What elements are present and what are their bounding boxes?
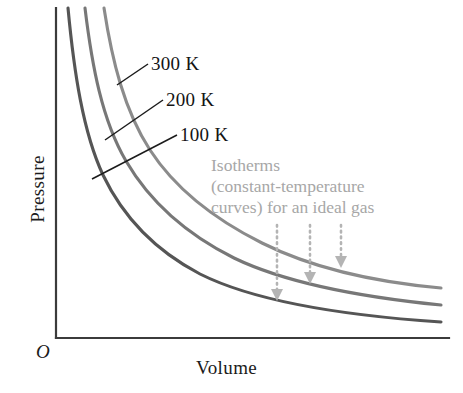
annotation-arrow-200K [304, 225, 316, 284]
isotherm-annotation: Isotherms (constant-temperature curves) … [211, 155, 449, 218]
annotation-line-3: curves) for an ideal gas [211, 197, 449, 218]
x-axis-label: Volume [196, 357, 257, 379]
curve-label-100K: 100 K [180, 124, 228, 146]
y-axis-label: Pressure [27, 129, 49, 249]
curve-300K [104, 8, 441, 288]
curve-label-300K: 300 K [151, 53, 199, 75]
annotation-line-1: Isotherms [211, 155, 449, 176]
origin-label: O [36, 341, 50, 363]
leader-line-200K [105, 100, 163, 140]
annotation-line-2: (constant-temperature [211, 176, 449, 197]
annotation-arrow-300K [335, 225, 347, 268]
curve-label-200K: 200 K [166, 89, 214, 111]
isotherm-figure: Pressure Volume O 300 K 200 K 100 K Isot… [0, 0, 463, 393]
leader-line-300K [117, 64, 148, 85]
annotation-arrow-100K [271, 225, 283, 301]
